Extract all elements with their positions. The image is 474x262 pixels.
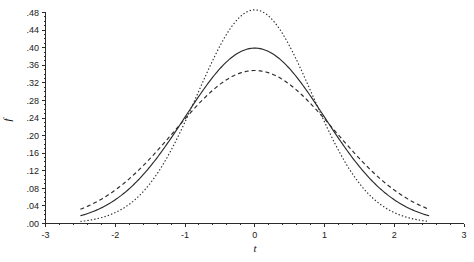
y-tick-label: .16: [26, 148, 39, 158]
density-curve-standard-normal-density: [80, 48, 429, 216]
x-axis-title: t: [253, 242, 257, 254]
x-tick-label: 1: [322, 230, 327, 240]
density-plot: .00.04.08.12.16.20.24.28.32.36.40.44.48 …: [0, 0, 474, 262]
y-tick-label: .44: [26, 25, 39, 35]
x-axis-tick-labels: -3-2-10123: [41, 230, 466, 240]
density-curves: [80, 10, 429, 222]
y-tick-label: .08: [26, 184, 39, 194]
y-tick-label: .28: [26, 96, 39, 106]
x-tick-label: 2: [392, 230, 397, 240]
y-axis-title: f: [1, 117, 13, 122]
y-tick-label: .20: [26, 131, 39, 141]
y-tick-label: .40: [26, 43, 39, 53]
y-tick-label: .48: [26, 8, 39, 18]
x-tick-label: -2: [111, 230, 119, 240]
y-axis-tick-labels: .00.04.08.12.16.20.24.28.32.36.40.44.48: [26, 8, 39, 229]
y-tick-label: .36: [26, 60, 39, 70]
x-tick-label: -3: [41, 230, 49, 240]
x-tick-label: -1: [181, 230, 189, 240]
y-tick-label: .12: [26, 166, 39, 176]
y-tick-label: .32: [26, 78, 39, 88]
density-curve-wide-density: [80, 71, 429, 210]
y-tick-label: .04: [26, 201, 39, 211]
density-curve-narrow-density: [80, 10, 429, 222]
x-tick-label: 0: [252, 230, 257, 240]
x-tick-label: 3: [461, 230, 466, 240]
y-tick-label: .24: [26, 113, 39, 123]
chart-figure: .00.04.08.12.16.20.24.28.32.36.40.44.48 …: [0, 0, 474, 262]
y-tick-label: .00: [26, 219, 39, 229]
